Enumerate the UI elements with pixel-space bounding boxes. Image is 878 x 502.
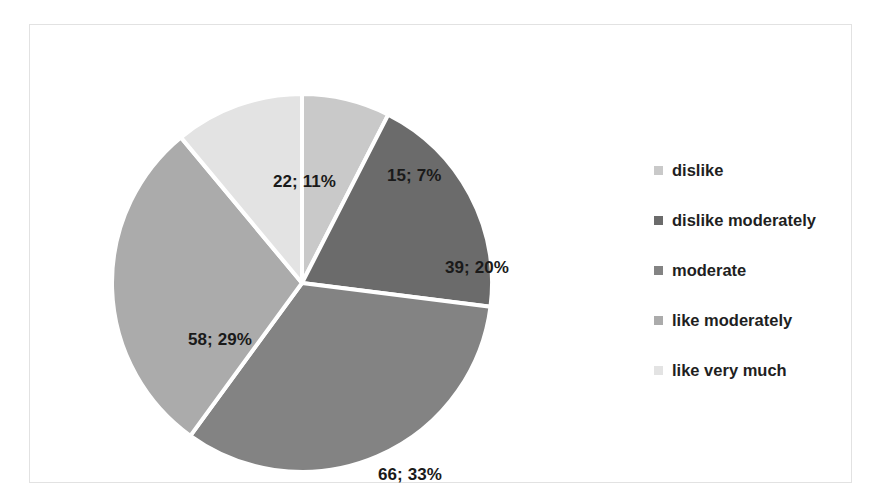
chart-legend: dislikedislike moderately moderatelike m… bbox=[654, 157, 869, 383]
legend-item-label: like very much bbox=[672, 362, 787, 379]
legend-item-label: dislike moderately bbox=[672, 212, 816, 229]
legend-swatch-icon bbox=[654, 316, 663, 325]
legend-item[interactable]: like very much bbox=[654, 357, 869, 383]
legend-item-label: like moderately bbox=[672, 312, 792, 329]
legend-item-label: moderate bbox=[672, 262, 746, 279]
slice-data-label-dislike: 15; 7% bbox=[387, 166, 441, 186]
pie-plot-area: 15; 7% 39; 20% 66; 33% 58; 29% 22; 11% bbox=[100, 80, 510, 485]
slice-data-label-like-moderately: 58; 29% bbox=[188, 330, 252, 350]
legend-swatch-icon bbox=[654, 366, 663, 375]
legend-item[interactable]: dislike moderately bbox=[654, 207, 869, 233]
pie-slice-group bbox=[112, 94, 492, 472]
chart-frame: 15; 7% 39; 20% 66; 33% 58; 29% 22; 11% d… bbox=[29, 24, 852, 483]
slice-data-label-moderate: 66; 33% bbox=[378, 465, 442, 485]
legend-item[interactable]: moderate bbox=[654, 257, 869, 283]
legend-item[interactable]: dislike bbox=[654, 157, 869, 183]
legend-swatch-icon bbox=[654, 216, 663, 225]
pie-svg bbox=[100, 80, 510, 485]
slice-data-label-dislike-moderately: 39; 20% bbox=[445, 258, 509, 278]
slice-data-label-like-very-much: 22; 11% bbox=[273, 172, 336, 192]
legend-swatch-icon bbox=[654, 166, 663, 175]
pie-chart-figure: 15; 7% 39; 20% 66; 33% 58; 29% 22; 11% d… bbox=[0, 0, 878, 502]
legend-item[interactable]: like moderately bbox=[654, 307, 869, 333]
legend-swatch-icon bbox=[654, 266, 663, 275]
legend-item-label: dislike bbox=[672, 162, 723, 179]
